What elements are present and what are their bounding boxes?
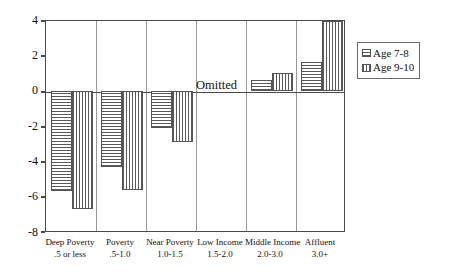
x-category-low-income: Low Income 1.5-2.0 — [195, 236, 245, 260]
y-tick-label-neg6: -6 — [0, 189, 38, 204]
x-category-range: .5 or less — [45, 248, 95, 260]
y-tick-text: 0 — [32, 83, 38, 97]
x-category-range: 1.0-1.5 — [145, 248, 195, 260]
legend-item-age-7-8: Age 7-8 — [362, 47, 414, 61]
omitted-label: Omitted — [196, 78, 237, 92]
x-category-name: Low Income — [195, 236, 245, 248]
x-category-range: 3.0+ — [295, 248, 345, 260]
y-tick-text: -2 — [28, 119, 38, 133]
x-category-name: Poverty — [95, 236, 145, 248]
x-category-range: 2.0-3.0 — [245, 248, 295, 260]
bar-deep-poverty-age-7-8 — [51, 91, 72, 192]
y-tick-text: 2 — [32, 48, 38, 62]
x-category-range: .5-1.0 — [95, 248, 145, 260]
bar-poverty-age-7-8 — [101, 91, 122, 167]
x-category-middle-income: Middle Income 2.0-3.0 — [245, 236, 295, 260]
bars-layer — [45, 20, 345, 232]
legend-label-age-9-10: Age 9-10 — [373, 61, 414, 75]
bar-middle-income-age-9-10 — [272, 73, 293, 91]
bar-affluent-age-7-8 — [301, 62, 322, 90]
x-category-name: Near Poverty — [145, 236, 195, 248]
x-category-poverty: Poverty .5-1.0 — [95, 236, 145, 260]
y-tick-text: 4 — [32, 13, 38, 27]
x-axis-labels: Deep Poverty .5 or less Poverty .5-1.0 N… — [45, 236, 345, 276]
legend: Age 7-8 Age 9-10 — [357, 42, 420, 79]
x-category-range: 1.5-2.0 — [195, 248, 245, 260]
bar-deep-poverty-age-9-10 — [72, 91, 93, 209]
bar-near-poverty-age-9-10 — [172, 91, 193, 142]
bar-middle-income-age-7-8 — [251, 80, 272, 91]
y-tick-label-neg2: -2 — [0, 119, 38, 134]
bar-near-poverty-age-7-8 — [151, 91, 172, 128]
y-tick-label-neg8: -8 — [0, 225, 38, 240]
x-category-name: Affluent — [295, 236, 345, 248]
bar-affluent-age-9-10 — [322, 21, 343, 91]
x-category-affluent: Affluent 3.0+ — [295, 236, 345, 260]
y-tick-text: -4 — [28, 154, 38, 168]
x-category-name: Middle Income — [245, 236, 295, 248]
legend-swatch-icon-age-9-10 — [362, 64, 371, 72]
x-category-name: Deep Poverty — [45, 236, 95, 248]
y-tick-label-neg4: -4 — [0, 154, 38, 169]
y-tick-text: -8 — [28, 225, 38, 239]
omitted-annotation: Omitted — [196, 78, 237, 93]
y-tick-text: -6 — [28, 189, 38, 203]
bar-poverty-age-9-10 — [122, 91, 143, 190]
x-category-deep-poverty: Deep Poverty .5 or less — [45, 236, 95, 260]
legend-swatch-icon-age-7-8 — [362, 49, 371, 57]
y-tick-label-2: 2 — [0, 48, 38, 63]
x-category-near-poverty: Near Poverty 1.0-1.5 — [145, 236, 195, 260]
legend-label-age-7-8: Age 7-8 — [373, 47, 409, 61]
y-tick-label-0: 0 — [0, 83, 38, 98]
legend-item-age-9-10: Age 9-10 — [362, 61, 414, 75]
chart-root: 4 2 0 -2 -4 -6 -8 — [0, 0, 452, 279]
y-tick-label-4: 4 — [0, 13, 38, 28]
